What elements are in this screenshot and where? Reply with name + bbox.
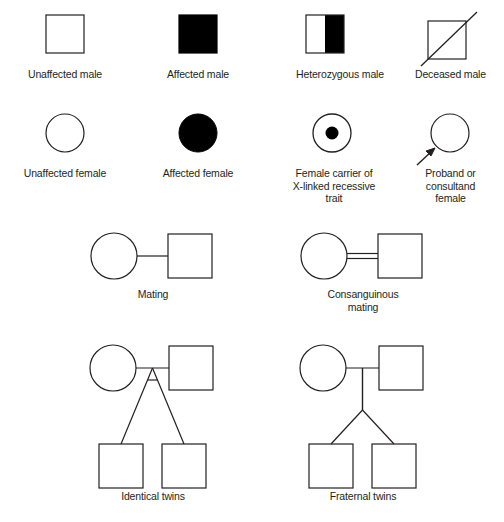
symbol-deceased-male <box>427 14 487 66</box>
diagram-fraternal-twins <box>298 340 473 485</box>
caption-heterozygous-male: Heterozygous male <box>274 68 406 81</box>
sibship-diagonal-right <box>363 410 395 444</box>
caption-deceased-male: Deceased male <box>397 68 504 81</box>
mother-circle-icon <box>301 233 347 279</box>
caption-consanguinous-mating: Consanguinous mating <box>305 288 421 313</box>
caption-affected-female: Affected female <box>133 167 263 180</box>
symbol-affected-male <box>178 14 222 58</box>
diagram-consanguinous-mating <box>300 228 425 288</box>
carrier-dot-icon <box>326 127 339 140</box>
circle-outline-icon <box>431 114 469 152</box>
mother-circle-icon <box>91 233 137 279</box>
symbol-proband-female <box>430 113 490 173</box>
square-outline-icon <box>46 15 84 53</box>
father-square-icon <box>379 346 423 390</box>
twin-sibship-diagonal-left <box>121 368 153 444</box>
diagram-mating <box>90 228 215 288</box>
mother-circle-icon <box>300 345 346 391</box>
caption-affected-male: Affected male <box>133 68 263 81</box>
diagram-identical-twins <box>88 340 263 485</box>
caption-fraternal-twins: Fraternal twins <box>305 490 421 503</box>
sibship-diagonal-left <box>331 410 363 444</box>
twin-child-square-left <box>99 444 143 488</box>
father-square-icon <box>169 346 213 390</box>
caption-proband-female: Proband or consultand female <box>397 167 504 205</box>
deceased-slash-icon <box>421 12 477 66</box>
symbol-heterozygous-male <box>305 14 349 58</box>
caption-identical-twins: Identical twins <box>95 490 211 503</box>
mother-circle-icon <box>90 345 136 391</box>
symbol-unaffected-female <box>45 113 89 157</box>
symbol-unaffected-male <box>45 14 89 58</box>
father-square-icon <box>378 234 422 278</box>
square-half-filled-icon <box>325 15 344 53</box>
caption-unaffected-female: Unaffected female <box>0 167 130 180</box>
father-square-icon <box>168 234 212 278</box>
circle-filled-icon <box>179 114 217 152</box>
pedigree-legend: Unaffected male Affected male Heterozygo… <box>0 0 504 522</box>
symbol-affected-female <box>178 113 222 157</box>
caption-mating: Mating <box>95 288 211 301</box>
symbol-carrier-female <box>312 113 356 157</box>
twin-child-square-right <box>162 444 206 488</box>
circle-outline-icon <box>46 114 84 152</box>
caption-unaffected-male: Unaffected male <box>0 68 130 81</box>
twin-child-square-right <box>372 444 416 488</box>
twin-sibship-diagonal-right <box>153 368 185 444</box>
square-filled-icon <box>179 15 217 53</box>
twin-child-square-left <box>309 444 353 488</box>
caption-carrier-female: Female carrier of X-linked recessive tra… <box>280 167 388 205</box>
